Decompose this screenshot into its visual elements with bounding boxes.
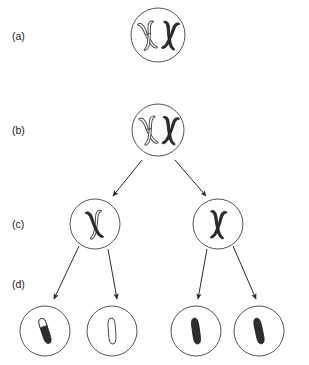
figure-canvas: (a) (b) xyxy=(0,0,309,365)
arrow-b-to-c-right xyxy=(175,160,206,196)
cell-membrane xyxy=(132,104,184,156)
cell-c-left[interactable] xyxy=(70,199,120,249)
cell-c-right[interactable] xyxy=(193,199,243,249)
arrow-c-to-d-right-2 xyxy=(233,246,256,299)
stage-d: (d) xyxy=(12,278,284,356)
meiosis-figure: (a) (b) xyxy=(0,0,309,365)
gamete-4[interactable] xyxy=(234,306,284,356)
gamete-1[interactable] xyxy=(20,306,70,356)
arrow-c-to-d-right-1 xyxy=(198,249,207,299)
cell-b-1[interactable] xyxy=(132,104,184,156)
arrow-group-b-to-c xyxy=(113,160,206,196)
gamete-3[interactable] xyxy=(171,306,221,356)
cell-membrane xyxy=(131,8,185,62)
stage-c: (c) xyxy=(12,199,243,249)
chromatid-light[interactable] xyxy=(108,318,117,344)
arrow-b-to-c-left xyxy=(113,160,142,196)
stage-a: (a) xyxy=(12,8,185,62)
stage-b: (b) xyxy=(12,104,184,156)
stage-label-b: (b) xyxy=(12,124,25,136)
stage-label-c: (c) xyxy=(12,218,24,230)
stage-label-d: (d) xyxy=(12,278,25,290)
gamete-2[interactable] xyxy=(87,306,137,356)
stage-label-a: (a) xyxy=(12,30,25,42)
arrow-c-to-d-left-1 xyxy=(54,246,79,299)
arrow-group-c-to-d xyxy=(54,246,256,299)
arrow-c-to-d-left-2 xyxy=(108,249,117,299)
cell-a-1[interactable] xyxy=(131,8,185,62)
